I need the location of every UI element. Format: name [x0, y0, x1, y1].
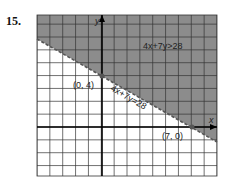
point-label-0-4: (0, 4) — [73, 80, 94, 90]
y-axis-label: y — [94, 16, 100, 26]
point-0-4 — [100, 74, 105, 79]
point-7-0 — [190, 125, 195, 130]
x-axis-label: x — [208, 115, 214, 125]
region-label: 4x+7y>28 — [143, 41, 183, 51]
inequality-graph: y x 4x+7y>28 (0, 4) (7, 0) 4x+7y=28 — [0, 0, 227, 180]
point-label-7-0: (7, 0) — [162, 131, 183, 141]
